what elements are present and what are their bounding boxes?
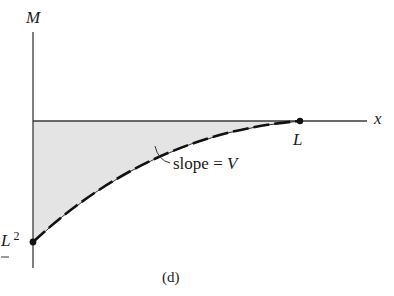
start-label-base: L bbox=[1, 231, 10, 250]
m-axis-label: M bbox=[26, 9, 40, 26]
figure-caption: (d) bbox=[162, 270, 180, 285]
point-l bbox=[297, 118, 303, 124]
point-l-label: L bbox=[293, 131, 302, 148]
moment-diagram bbox=[0, 0, 394, 296]
point-start bbox=[30, 239, 37, 246]
start-value-label: L2 bbox=[1, 230, 19, 249]
slope-variable: V bbox=[227, 154, 237, 173]
x-axis-label: x bbox=[374, 110, 382, 127]
slope-annotation: slope = V bbox=[173, 155, 237, 172]
start-label-exponent: 2 bbox=[13, 229, 19, 243]
shaded-moment-area bbox=[33, 121, 300, 242]
slope-text: slope = bbox=[173, 154, 227, 173]
